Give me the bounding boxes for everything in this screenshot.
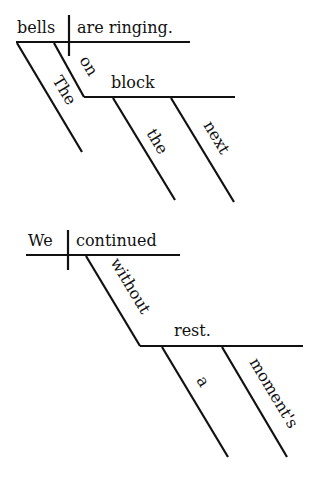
diagram-2: We continued without rest. a moment's — [26, 230, 303, 457]
modifier-line-a — [162, 347, 228, 457]
subject-word: bells — [17, 18, 55, 37]
predicate-word-2: continued — [76, 231, 157, 250]
sentence-diagrams: bells are ringing. The on block the next… — [0, 0, 316, 486]
modifier-word-a: a — [193, 372, 214, 390]
preposition-word-without: without — [107, 254, 155, 317]
modifier-word-moments: moment's — [246, 354, 303, 431]
object-word-block: block — [111, 73, 155, 92]
preposition-word-on: on — [76, 52, 103, 79]
subject-word-2: We — [28, 231, 53, 250]
object-word-rest: rest. — [174, 321, 211, 340]
predicate-word: are ringing. — [77, 18, 173, 37]
diagram-1: bells are ringing. The on block the next — [16, 15, 235, 202]
